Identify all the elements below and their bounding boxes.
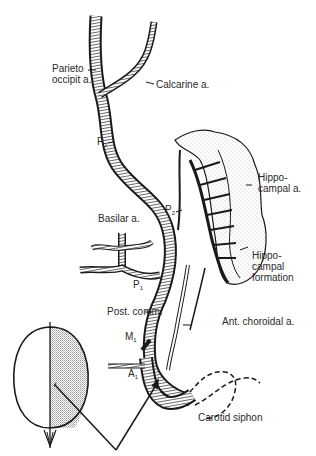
label-parieto-occipital: Parieto occipit a. [52, 63, 91, 85]
label-p2: P2 [165, 204, 175, 219]
label-post-comm: Post. comm. [107, 306, 163, 317]
label-carotid-siphon: Carotid siphon [198, 412, 262, 423]
label-hippocampal-artery: Hippo- campal a. [258, 172, 301, 194]
basilar-artery [80, 233, 160, 276]
calcarine-artery [100, 22, 154, 95]
artery-diagram [0, 0, 316, 456]
label-p3: P3 [97, 136, 107, 151]
label-hippocampal-formation: Hippo- campal formation [252, 250, 294, 283]
anterior-choroidal-artery [168, 265, 205, 370]
head-inset [14, 322, 89, 448]
label-calcarine: Calcarine a. [156, 79, 209, 90]
posterior-cerebral-artery [95, 16, 190, 400]
label-m1: M1 [125, 331, 137, 346]
label-p1: P1 [133, 279, 143, 294]
label-a1: A1 [128, 368, 138, 383]
label-basilar: Basilar a. [98, 213, 140, 224]
label-ant-choroidal: Ant. choroidal a. [222, 316, 294, 327]
